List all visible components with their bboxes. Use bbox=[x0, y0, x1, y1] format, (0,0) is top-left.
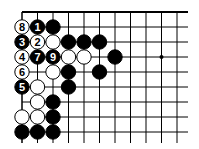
move-number: 2 bbox=[34, 36, 40, 48]
stone-disc bbox=[92, 35, 106, 49]
white-stone: 2 bbox=[30, 35, 44, 49]
move-number: 8 bbox=[19, 21, 25, 33]
move-number: 1 bbox=[34, 21, 40, 33]
black-stone bbox=[46, 95, 60, 109]
white-stone bbox=[30, 95, 44, 109]
black-stone bbox=[61, 65, 75, 79]
stone-disc bbox=[46, 110, 60, 124]
stone-disc bbox=[46, 20, 60, 34]
go-board: 813247965 bbox=[0, 0, 199, 149]
white-stone bbox=[46, 65, 60, 79]
white-stone: 4 bbox=[15, 50, 29, 64]
stone-disc bbox=[61, 50, 75, 64]
stone-disc bbox=[30, 80, 44, 94]
stone-disc bbox=[108, 50, 122, 64]
black-stone bbox=[77, 35, 91, 49]
stone-disc bbox=[46, 35, 60, 49]
black-stone: 7 bbox=[30, 50, 44, 64]
black-stone: 1 bbox=[30, 20, 44, 34]
white-stone bbox=[30, 80, 44, 94]
move-number: 7 bbox=[34, 51, 40, 63]
black-stone: 9 bbox=[46, 50, 60, 64]
stone-disc bbox=[61, 35, 75, 49]
black-stone bbox=[108, 50, 122, 64]
move-number: 4 bbox=[19, 51, 26, 63]
stone-disc bbox=[92, 65, 106, 79]
stone-disc bbox=[46, 95, 60, 109]
white-stone: 6 bbox=[15, 65, 29, 79]
stone-disc bbox=[46, 65, 60, 79]
white-stone bbox=[30, 110, 44, 124]
black-stone: 3 bbox=[15, 35, 29, 49]
white-stone bbox=[46, 35, 60, 49]
black-stone bbox=[30, 125, 44, 139]
black-stone bbox=[46, 20, 60, 34]
move-number: 5 bbox=[19, 81, 25, 93]
move-number: 3 bbox=[19, 36, 25, 48]
black-stone bbox=[61, 35, 75, 49]
move-number: 9 bbox=[50, 51, 56, 63]
black-stone bbox=[46, 110, 60, 124]
black-stone bbox=[92, 65, 106, 79]
white-stone bbox=[77, 50, 91, 64]
black-stone bbox=[92, 35, 106, 49]
move-number: 6 bbox=[19, 66, 25, 78]
stone-disc bbox=[30, 125, 44, 139]
stone-disc bbox=[15, 125, 29, 139]
black-stone: 5 bbox=[15, 80, 29, 94]
stone-disc bbox=[61, 65, 75, 79]
white-stone bbox=[61, 50, 75, 64]
black-stone bbox=[15, 125, 29, 139]
star-point bbox=[160, 55, 164, 59]
white-stone: 8 bbox=[15, 20, 29, 34]
star-points bbox=[160, 55, 164, 59]
stone-disc bbox=[15, 110, 29, 124]
stone-disc bbox=[77, 50, 91, 64]
stone-disc bbox=[30, 95, 44, 109]
black-stone bbox=[61, 80, 75, 94]
stone-disc bbox=[46, 125, 60, 139]
black-stone bbox=[46, 125, 60, 139]
stone-disc bbox=[30, 110, 44, 124]
white-stone bbox=[15, 110, 29, 124]
stone-disc bbox=[77, 35, 91, 49]
stone-disc bbox=[61, 80, 75, 94]
